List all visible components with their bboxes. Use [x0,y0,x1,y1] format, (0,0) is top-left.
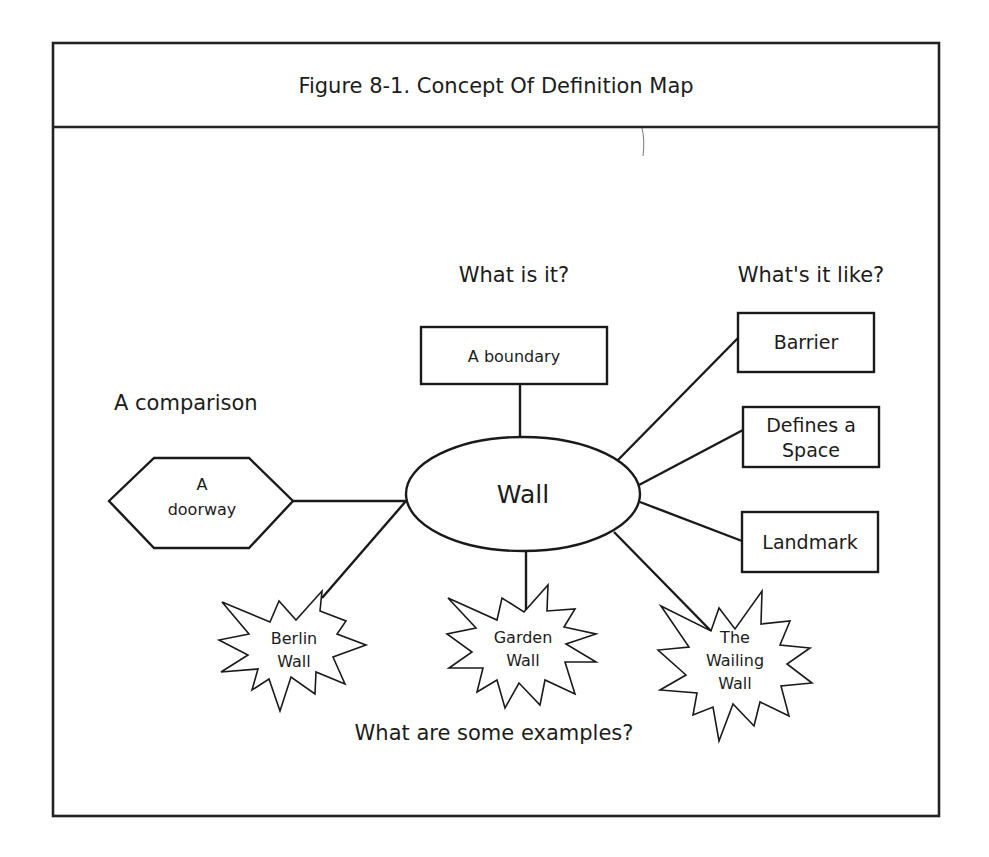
definition-label: A boundary [468,347,560,366]
example-node-garden-wall: Garden Wall [447,585,596,708]
example-label-line1: Berlin [271,629,317,648]
property-node-landmark: Landmark [742,512,878,572]
example-label-line2: Wall [277,652,311,671]
example-label-line3: Wall [718,674,752,693]
example-node-wailing-wall: The Wailing Wall [658,591,812,741]
connector-defines-space [639,430,743,485]
question-whats-it-like: What's it like? [738,263,884,287]
property-node-defines-space: Defines a Space [743,407,879,467]
question-comparison: A comparison [114,391,258,415]
definition-node: A boundary [421,327,607,384]
property-node-barrier: Barrier [738,313,874,372]
question-what-is-it: What is it? [459,263,570,287]
example-label-line2: Wall [506,651,540,670]
figure-title: Figure 8-1. Concept Of Definition Map [298,74,693,98]
connector-landmark [640,502,742,541]
comparison-label-line1: A [197,475,208,494]
central-concept: Wall [406,437,640,551]
property-label: Landmark [762,531,857,553]
example-label-line1: Garden [494,628,553,647]
connector-berlin [322,501,406,598]
comparison-node: A doorway [109,458,293,548]
property-label-line1: Defines a [766,414,856,436]
example-node-berlin-wall: Berlin Wall [219,591,366,711]
starburst-shape [219,591,366,711]
concept-definition-map: Figure 8-1. Concept Of Definition Map Wh… [0,0,989,857]
property-label: Barrier [774,331,839,353]
example-label-line1: The [719,628,750,647]
comparison-label-line2: doorway [168,500,237,519]
concept-label: Wall [497,480,549,509]
stray-mark [642,128,644,156]
example-label-line2: Wailing [706,651,764,670]
question-examples: What are some examples? [355,721,634,745]
property-label-line2: Space [782,439,840,461]
connector-wailing [614,532,711,631]
